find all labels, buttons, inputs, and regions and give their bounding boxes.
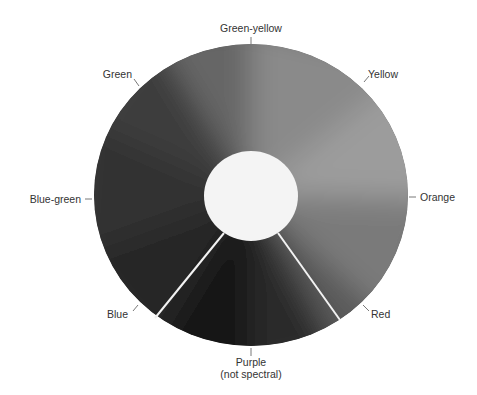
label-red: Red: [371, 308, 390, 320]
label-not-spectral: (not spectral): [220, 368, 281, 380]
label-blue: Blue: [107, 308, 128, 320]
color-wheel-diagram: Green-yellow Yellow Orange Red Purple (n…: [0, 0, 477, 395]
label-blue-green: Blue-green: [30, 193, 82, 205]
label-green: Green: [103, 68, 132, 80]
center-white-circle: [204, 151, 298, 241]
label-yellow: Yellow: [368, 68, 398, 80]
label-orange: Orange: [420, 191, 455, 203]
label-green-yellow: Green-yellow: [220, 22, 282, 34]
label-purple: Purple: [236, 356, 267, 368]
